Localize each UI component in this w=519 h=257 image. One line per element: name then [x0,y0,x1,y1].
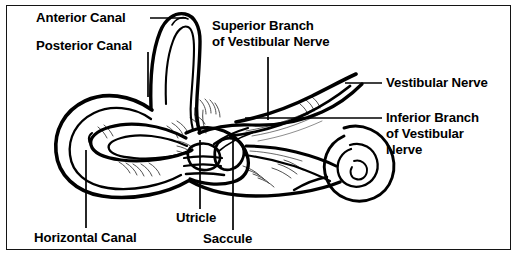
anterior-canal-shape [151,14,200,133]
figure-inner-ear-labyrinth: Anterior Canal Posterior Canal Superior … [0,0,519,257]
label-superior-branch-line1: Superior Branch [212,18,314,34]
endolymphatic-ducts [184,157,224,176]
label-vestibular-nerve: Vestibular Nerve [386,75,488,91]
label-anterior-canal: Anterior Canal [36,10,125,26]
label-utricle: Utricle [176,210,216,226]
label-inferior-branch-line3: Nerve [386,142,422,158]
label-inferior-branch-line2: of Vestibular [386,126,464,142]
horizontal-canal-shape [89,124,192,161]
vestibular-nerve-trunk [230,74,356,141]
label-horizontal-canal: Horizontal Canal [34,230,136,246]
label-superior-branch-line2: of Vestibular Nerve [212,34,330,50]
label-inferior-branch-line1: Inferior Branch [386,110,479,126]
posterior-canal-shape [56,96,188,198]
label-posterior-canal: Posterior Canal [36,38,132,54]
label-saccule: Saccule [203,231,252,247]
